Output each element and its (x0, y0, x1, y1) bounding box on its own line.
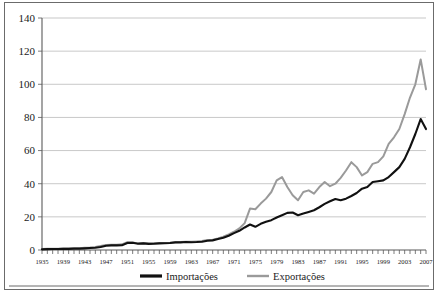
x-tick-label: 1955 (142, 258, 156, 265)
y-tick-label: 20 (24, 211, 36, 223)
x-tick-label: 1963 (185, 258, 199, 265)
legend-label: Exportações (273, 271, 325, 282)
x-axis: 1935193919431947195119551959196319671971… (35, 250, 433, 265)
x-tick-label: 1983 (291, 258, 305, 265)
line-chart: 020406080100120140 193519391943194719511… (5, 3, 433, 289)
x-tick-label: 1995 (355, 258, 369, 265)
series-line-exportacoes (42, 59, 426, 249)
x-tick-label: 2003 (398, 258, 412, 265)
x-tick-label: 1947 (99, 258, 113, 265)
x-tick-label: 1991 (334, 258, 347, 265)
y-tick-label: 100 (19, 78, 36, 90)
x-tick-label: 1987 (313, 258, 327, 265)
series-lines (42, 59, 426, 249)
x-tick-label: 1943 (78, 258, 92, 265)
y-tick-label: 80 (24, 111, 36, 123)
x-tick-label: 1975 (249, 258, 263, 265)
chart-plot-area: 020406080100120140 193519391943194719511… (5, 3, 433, 289)
x-tick-label: 1939 (57, 258, 71, 265)
y-tick-label: 40 (24, 178, 36, 190)
x-tick-label: 1935 (35, 258, 49, 265)
x-tick-label: 1979 (270, 258, 284, 265)
x-tick-label: 2007 (419, 258, 433, 265)
x-tick-label: 1967 (206, 258, 220, 265)
y-tick-label: 60 (24, 144, 36, 156)
y-axis: 020406080100120140 (19, 12, 43, 256)
chart-frame: 020406080100120140 193519391943194719511… (4, 2, 434, 290)
y-tick-label: 120 (19, 45, 36, 57)
y-tick-label: 0 (30, 244, 36, 256)
legend-label: Importações (166, 271, 218, 282)
series-line-importacoes (42, 119, 426, 249)
x-tick-label: 1971 (227, 258, 240, 265)
y-tick-label: 140 (19, 12, 36, 24)
chart-legend: ImportaçõesExportações (9, 271, 429, 286)
x-tick-label: 1959 (163, 258, 177, 265)
x-tick-label: 1951 (121, 258, 134, 265)
x-tick-label: 1999 (377, 258, 391, 265)
